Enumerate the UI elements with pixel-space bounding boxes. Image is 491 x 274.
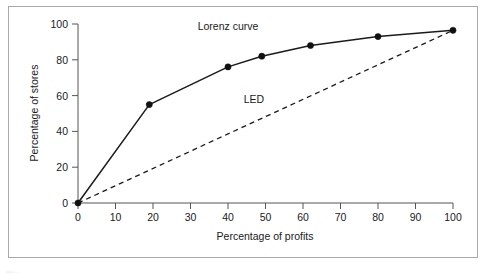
led-annotation: LED [244,93,265,105]
y-tick-label: 40 [56,125,68,137]
data-point-marker [146,102,152,108]
data-point-marker [450,27,456,33]
y-tick-label: 60 [56,90,68,102]
y-axis-title: Percentage of stores [28,65,40,162]
x-tick-label: 60 [297,211,309,223]
x-tick-label: 20 [147,211,159,223]
led-reference-line [78,30,453,203]
y-tick-label: 20 [56,161,68,173]
y-tick-label: 0 [62,197,68,209]
figure-caption-text: Fig. [6,270,21,273]
y-axis-tick-labels: 0 20 40 60 80 100 [50,18,68,209]
lorenz-curve-annotation: Lorenz curve [198,20,259,32]
lorenz-curve-line [78,30,453,203]
y-tick-label: 80 [56,54,68,66]
x-tick-label: 70 [335,211,347,223]
data-point-marker [225,64,231,70]
x-tick-label: 30 [185,211,197,223]
x-tick-label: 50 [260,211,272,223]
x-tick-label: 100 [444,211,462,223]
y-axis-ticks [72,24,78,203]
data-point-marker [307,42,313,48]
lorenz-curve-chart: 0 20 40 60 80 100 0 10 20 30 40 50 60 70… [0,0,491,274]
x-tick-label: 90 [410,211,422,223]
x-axis-title: Percentage of profits [217,230,314,242]
data-point-marker [75,200,81,206]
x-tick-label: 0 [75,211,81,223]
data-point-marker [375,34,381,40]
x-tick-label: 40 [222,211,234,223]
x-axis-tick-labels: 0 10 20 30 40 50 60 70 80 90 100 [75,211,462,223]
lorenz-curve-markers [75,27,456,206]
x-tick-label: 10 [110,211,122,223]
y-tick-label: 100 [50,18,68,30]
x-axis-ticks [78,203,453,209]
data-point-marker [259,53,265,59]
x-tick-label: 80 [372,211,384,223]
figure-caption: Fig. [6,264,206,273]
